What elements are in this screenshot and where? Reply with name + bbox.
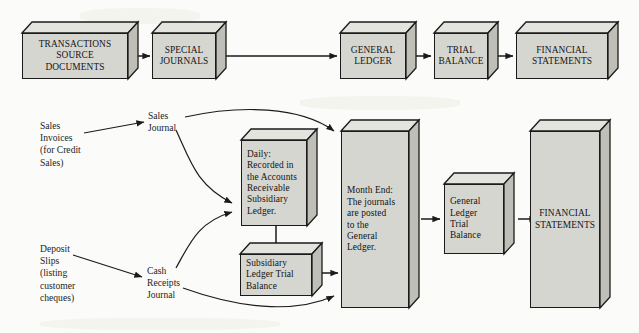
box-general-ledger-trial-balance[interactable]: General Ledger Trial Balance <box>444 184 504 254</box>
box-label: TRIAL BALANCE <box>434 45 489 68</box>
box-label: General Ledger Trial Balance <box>445 196 486 242</box>
label-sales-invoices: Sales Invoices (for Credit Sales) <box>40 120 81 169</box>
box-daily-subsidiary-ledger[interactable]: Daily: Recorded in the Accounts Receivab… <box>241 140 307 226</box>
box-label: Subsidiary Ledger Trial Balance <box>241 258 299 292</box>
arrow-sales-journal-to-month-end <box>185 110 334 131</box>
box-general-ledger[interactable]: GENERAL LEDGER <box>340 33 406 79</box>
box-financial-statements-top[interactable]: FINANCIAL STATEMENTS <box>516 33 608 79</box>
arrow-deposit-slips-to-cash-receipts-journal <box>73 255 142 277</box>
box-label: GENERAL LEDGER <box>346 45 400 68</box>
box-label: Month End: The journals are posted to th… <box>342 185 400 253</box>
box-label: SPECIAL JOURNALS <box>155 45 214 68</box>
arrow-sales-journal-to-daily-box <box>176 130 232 203</box>
arrow-sales-invoices-to-sales-journal <box>84 122 144 133</box>
box-trial-balance[interactable]: TRIAL BALANCE <box>434 33 488 79</box>
box-label: TRANSACTIONS SOURCE DOCUMENTS <box>34 39 117 73</box>
label-deposit-slips: Deposit Slips (listing customer cheques) <box>40 243 75 304</box>
box-transactions-source-documents[interactable]: TRANSACTIONS SOURCE DOCUMENTS <box>22 33 128 79</box>
box-label: FINANCIAL STATEMENTS <box>527 45 597 68</box>
box-month-end-general-ledger[interactable]: Month End: The journals are posted to th… <box>341 131 409 308</box>
box-label: FINANCIAL STATEMENTS <box>530 208 600 231</box>
label-sales-journal: Sales Journal <box>148 110 176 134</box>
box-subsidiary-ledger-trial-balance[interactable]: Subsidiary Ledger Trial Balance <box>240 254 312 296</box>
diagram-canvas: TRANSACTIONS SOURCE DOCUMENTS SPECIAL JO… <box>0 0 639 333</box>
box-financial-statements-bottom[interactable]: FINANCIAL STATEMENTS <box>530 131 600 308</box>
box-label: Daily: Recorded in the Accounts Receivab… <box>242 149 302 217</box>
label-cash-receipts-journal: Cash Receipts Journal <box>147 265 180 302</box>
box-special-journals[interactable]: SPECIAL JOURNALS <box>152 33 216 79</box>
arrow-cash-receipts-journal-to-daily-box <box>176 212 232 268</box>
